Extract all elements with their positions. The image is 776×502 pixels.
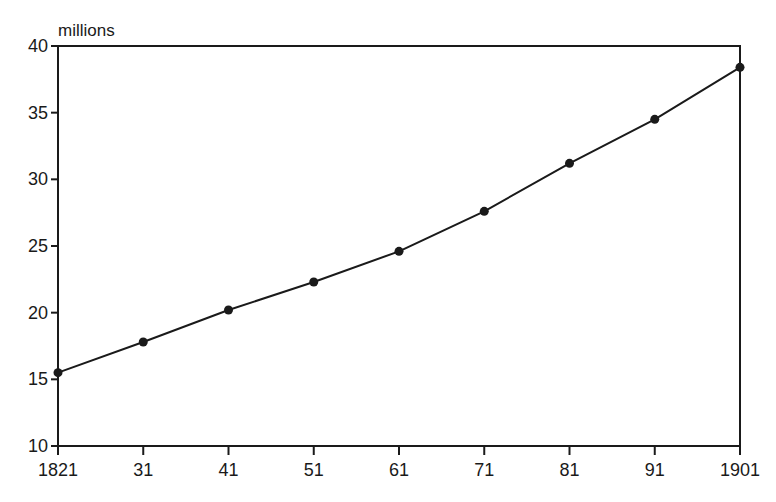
x-tick-label: 91 bbox=[645, 460, 665, 480]
x-tick-label: 41 bbox=[218, 460, 238, 480]
y-tick-label: 30 bbox=[28, 169, 48, 189]
axes bbox=[58, 46, 740, 446]
data-point-marker bbox=[565, 159, 574, 168]
y-tick-label: 10 bbox=[28, 436, 48, 456]
y-tick-label: 40 bbox=[28, 36, 48, 56]
data-point-marker bbox=[309, 278, 318, 287]
line-chart: 10152025303540 1821314151617181911901 mi… bbox=[0, 0, 776, 502]
chart: 10152025303540 1821314151617181911901 mi… bbox=[0, 0, 776, 502]
x-axis-ticks: 1821314151617181911901 bbox=[38, 446, 760, 480]
y-tick-label: 15 bbox=[28, 369, 48, 389]
y-axis-unit-label: millions bbox=[58, 21, 115, 40]
plot-frame bbox=[58, 46, 740, 446]
x-tick-label: 51 bbox=[304, 460, 324, 480]
y-tick-label: 20 bbox=[28, 303, 48, 323]
x-tick-label: 61 bbox=[389, 460, 409, 480]
data-point-marker bbox=[480, 207, 489, 216]
x-tick-label: 1901 bbox=[720, 460, 760, 480]
data-point-marker bbox=[54, 368, 63, 377]
data-point-marker bbox=[736, 63, 745, 72]
y-axis-ticks: 10152025303540 bbox=[28, 36, 58, 456]
data-point-marker bbox=[139, 338, 148, 347]
data-point-marker bbox=[224, 306, 233, 315]
x-tick-label: 81 bbox=[559, 460, 579, 480]
x-tick-label: 1821 bbox=[38, 460, 78, 480]
y-tick-label: 35 bbox=[28, 103, 48, 123]
data-series bbox=[54, 63, 745, 377]
x-tick-label: 71 bbox=[474, 460, 494, 480]
data-point-marker bbox=[395, 247, 404, 256]
x-tick-label: 31 bbox=[133, 460, 153, 480]
data-point-marker bbox=[650, 115, 659, 124]
series-line bbox=[58, 67, 740, 372]
y-tick-label: 25 bbox=[28, 236, 48, 256]
